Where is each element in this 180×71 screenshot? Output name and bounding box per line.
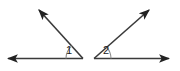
angle-diagram-figure: 1 2 — [0, 0, 180, 71]
angle-1-group: 1 — [8, 10, 83, 59]
angle-1-label: 1 — [66, 44, 72, 56]
angle-1-slanted-ray — [39, 10, 83, 59]
angle-2-label: 2 — [103, 44, 109, 56]
angle-2-group: 2 — [94, 10, 169, 59]
angle-diagram-svg: 1 2 — [0, 0, 180, 71]
